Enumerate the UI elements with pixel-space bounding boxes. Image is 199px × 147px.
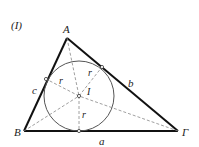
incenter-point [77, 94, 80, 97]
side-label-b: b [128, 77, 134, 89]
side-label-a: a [99, 135, 105, 147]
vertex-label-G: Γ [181, 126, 189, 138]
vertex-label-B: B [14, 126, 21, 138]
radius-label-BG: r [82, 109, 86, 120]
figure-tag: (I) [11, 19, 22, 32]
radius-label-AG: r [88, 67, 92, 78]
side-label-c: c [32, 84, 37, 96]
vertex-label-A: A [62, 23, 70, 35]
tangent-point-AB [44, 77, 47, 80]
incircle-diagram: (I) A B Γ I a b c r r r [0, 0, 199, 147]
tangent-point-BG [77, 129, 80, 132]
bisector-G [79, 96, 178, 131]
radius-label-AB: r [59, 75, 63, 86]
tangent-point-AG [100, 65, 103, 68]
incenter-label: I [86, 86, 91, 97]
